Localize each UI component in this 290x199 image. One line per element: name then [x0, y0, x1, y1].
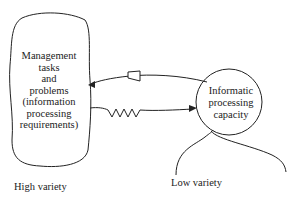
amplifier-connector — [91, 75, 207, 84]
management-line: requirements) — [10, 119, 88, 131]
management-line: (information — [10, 96, 88, 108]
management-line: tasks — [10, 62, 88, 74]
management-line: and — [10, 73, 88, 85]
arrowhead-left-icon — [88, 81, 95, 88]
capacity-label: Informatic processing capacity — [195, 85, 267, 121]
management-label: Management tasks and problems (informati… — [10, 50, 88, 131]
shoulder-left-line — [176, 130, 213, 175]
management-line: problems — [10, 85, 88, 97]
management-line: Management — [10, 50, 88, 62]
high-variety-caption: High variety — [14, 181, 67, 193]
management-line: processing — [10, 108, 88, 120]
capacity-line: processing — [195, 97, 267, 109]
attenuator-connector — [90, 108, 193, 117]
low-variety-caption: Low variety — [171, 177, 222, 189]
shoulder-right-line — [211, 131, 286, 172]
variety-diagram: Management tasks and problems (informati… — [0, 0, 290, 199]
capacity-line: capacity — [195, 109, 267, 121]
open-triangle-icon — [128, 71, 140, 81]
capacity-line: Informatic — [195, 85, 267, 97]
